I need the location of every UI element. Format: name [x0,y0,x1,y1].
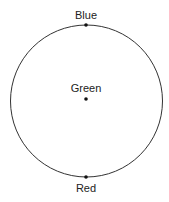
point-red [84,175,88,179]
label-red: Red [76,182,96,194]
circle-diagram: Blue Green Red [0,0,169,202]
point-blue [84,23,88,27]
label-blue: Blue [75,9,97,21]
circle-outline [11,25,163,177]
label-green: Green [71,82,102,94]
point-green [84,97,88,101]
